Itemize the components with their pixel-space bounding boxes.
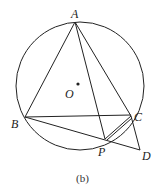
label-a: A xyxy=(70,7,79,21)
label-p: P xyxy=(97,145,106,159)
label-o: O xyxy=(65,87,74,101)
figure-caption: (b) xyxy=(76,172,89,185)
segment-ab xyxy=(25,22,75,117)
center-point-o xyxy=(76,82,79,85)
segment-bc xyxy=(25,115,131,117)
geometry-figure: A B C P D O (b) xyxy=(0,0,161,192)
segment-ac xyxy=(75,22,131,116)
segment-pc xyxy=(105,116,131,139)
label-c: C xyxy=(134,110,143,124)
label-b: B xyxy=(11,117,19,131)
label-d: D xyxy=(141,149,151,163)
segment-ap xyxy=(75,22,105,139)
